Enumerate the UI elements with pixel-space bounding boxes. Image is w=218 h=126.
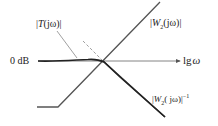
w2-inverse-dashed-extension: [83, 41, 103, 61]
zero-db-label: 0 dB: [10, 56, 29, 66]
w2-inverse-label: |W2( jω)|−1: [152, 93, 189, 106]
t-magnitude-label: |T(jω)|: [36, 19, 62, 29]
t-magnitude-curve: [38, 59, 165, 117]
inverse-superscript: −1: [183, 93, 189, 99]
x-axis-label: lgω: [183, 55, 200, 66]
abs-bar-right: |: [60, 18, 62, 29]
t-label-leader: [57, 31, 77, 58]
x-axis-label-lg: lg: [183, 54, 192, 66]
w2-magnitude-label: |W2(jω)|: [150, 18, 181, 30]
w2inv-argument: ( jω): [164, 94, 181, 104]
w2-argument: (jω): [163, 17, 179, 28]
t-argument: (jω): [44, 18, 60, 29]
bode-diagram: 0 dB lgω |T(jω)| |W2(jω)| |W2( jω)|−1: [0, 0, 218, 126]
x-axis-label-omega: ω: [193, 54, 201, 66]
abs-bar-right: |: [179, 17, 181, 28]
